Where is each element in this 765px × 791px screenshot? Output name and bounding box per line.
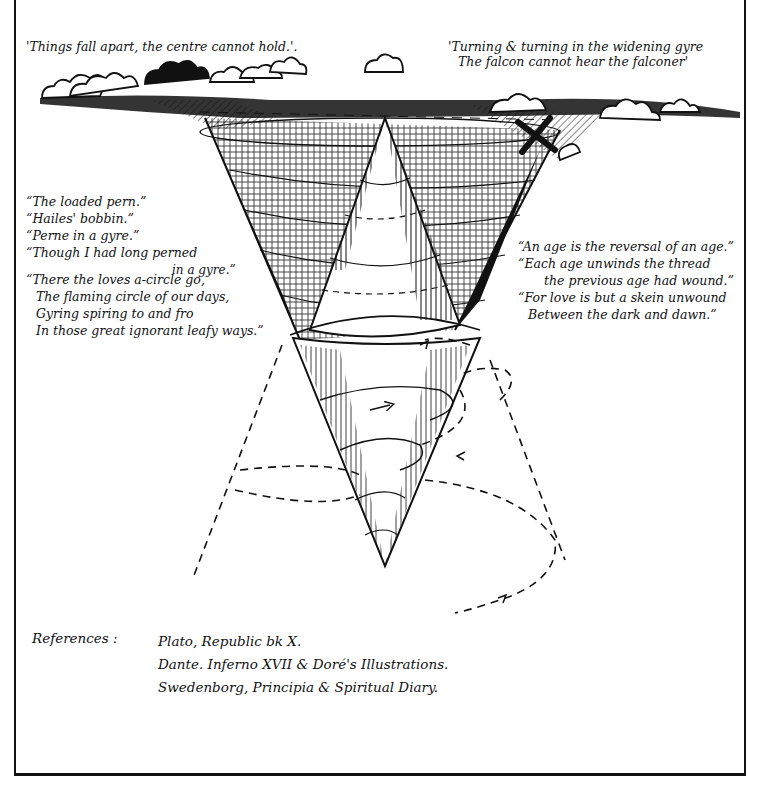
quote-line: “Though I had long perned: [26, 244, 264, 261]
quote-line: “Hailes' bobbin.”: [26, 210, 264, 227]
quote-line: the previous age had wound.”: [518, 272, 734, 289]
lower-cone: [290, 316, 480, 566]
reference-item: Plato, Republic bk X.: [158, 630, 448, 653]
references-label: References :: [32, 630, 118, 646]
spiral-arrowhead: [498, 595, 506, 603]
quote-line: “An age is the reversal of an age.”: [518, 238, 734, 255]
quote-top-right: 'Turning & turning in the widening gyre …: [448, 40, 703, 70]
reference-item: Swedenborg, Principia & Spiritual Diary.: [158, 676, 448, 699]
reference-item: Dante. Inferno XVII & Doré's Illustratio…: [158, 653, 448, 676]
quote-left-block: “The loaded pern.” “Hailes' bobbin.” “Pe…: [26, 193, 264, 339]
quote-line: In those great ignorant leafy ways.”: [26, 322, 264, 339]
quote-right-block: “An age is the reversal of an age.” “Eac…: [518, 238, 734, 323]
quote-line: “Each age unwinds the thread: [518, 255, 734, 272]
references-list: Plato, Republic bk X. Dante. Inferno XVI…: [158, 630, 448, 699]
quote-line: Between the dark and dawn.”: [518, 306, 734, 323]
spiral-arrowhead: [457, 452, 465, 460]
quote-top-left: 'Things fall apart, the centre cannot ho…: [26, 40, 297, 55]
quote-line: 'Turning & turning in the widening gyre: [448, 40, 703, 55]
quote-line: “The loaded pern.”: [26, 193, 264, 210]
quote-line: The falcon cannot hear the falconer': [448, 55, 703, 70]
quote-line: Gyring spiring to and fro: [26, 305, 264, 322]
quote-line: “Perne in a gyre.”: [26, 227, 264, 244]
quote-line: “For love is but a skein unwound: [518, 289, 734, 306]
quote-line: The flaming circle of our days,: [26, 288, 264, 305]
